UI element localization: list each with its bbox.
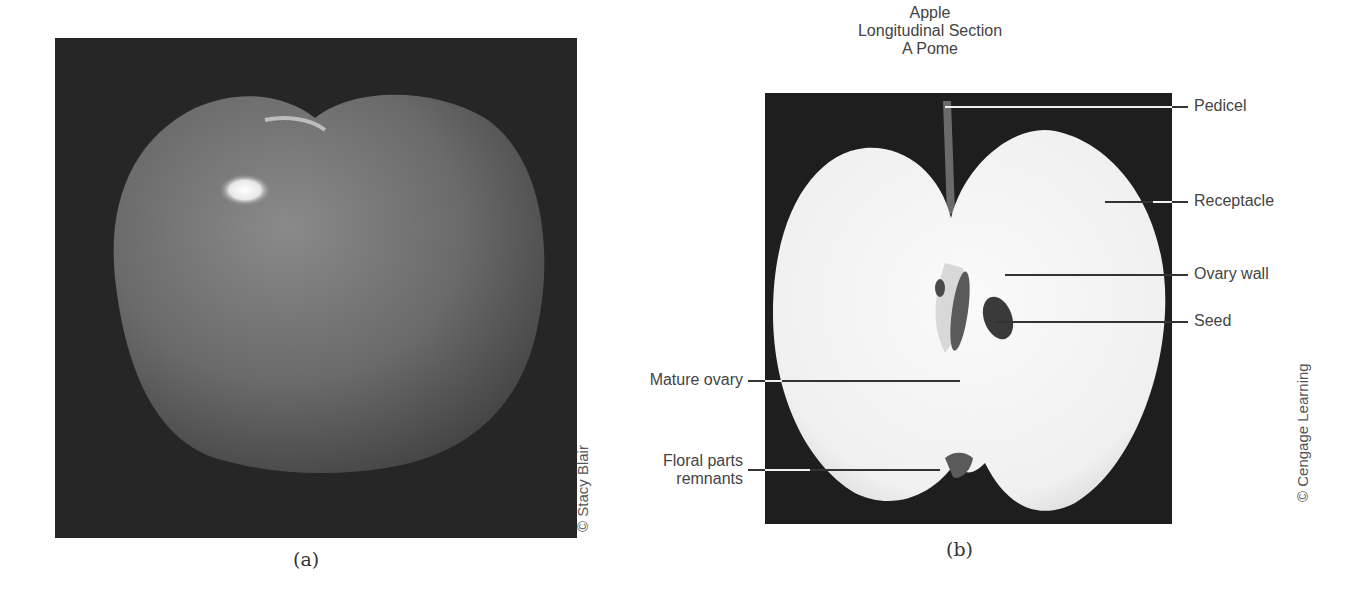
apple-section-illustration: [765, 93, 1172, 524]
title-line-3: A Pome: [830, 40, 1030, 58]
figure-a-credit: © Stacy Blair: [574, 445, 591, 532]
label-seed: Seed: [1194, 312, 1231, 330]
label-floral-parts-remnants: Floral parts remnants: [600, 452, 743, 488]
mature-ovary-leader-line-inner: [782, 380, 960, 382]
figure-b-credit: © Cengage Learning: [1294, 363, 1311, 502]
figure-b-caption: (b): [946, 538, 973, 560]
label-floral-parts-line-2: remnants: [600, 470, 743, 488]
seed-leader-line: [995, 321, 1188, 323]
floral-parts-leader-line-mid: [765, 469, 810, 471]
label-pedicel: Pedicel: [1194, 97, 1246, 115]
receptacle-leader-line-mid: [1153, 201, 1172, 203]
pedicel-leader-line-inner: [945, 106, 1172, 108]
floral-parts-leader-line-inner: [810, 469, 940, 471]
apple-illustration: [55, 38, 577, 538]
mature-ovary-leader-line-mid: [765, 380, 782, 382]
pedicel-leader-line: [1172, 106, 1188, 108]
ovary-wall-leader-line: [1005, 274, 1188, 276]
apple-section-photo: [765, 93, 1172, 524]
figure-b-title: Apple Longitudinal Section A Pome: [830, 4, 1030, 58]
label-receptacle: Receptacle: [1194, 192, 1274, 210]
label-ovary-wall: Ovary wall: [1194, 265, 1269, 283]
title-line-2: Longitudinal Section: [830, 22, 1030, 40]
label-mature-ovary: Mature ovary: [600, 371, 743, 389]
receptacle-leader-line: [1172, 201, 1188, 203]
floral-parts-leader-line: [748, 469, 765, 471]
title-line-1: Apple: [830, 4, 1030, 22]
mature-ovary-leader-line: [748, 380, 765, 382]
receptacle-leader-line-inner: [1105, 201, 1153, 203]
whole-apple-photo: [55, 38, 577, 538]
label-floral-parts-line-1: Floral parts: [600, 452, 743, 470]
figure-a-caption: (a): [293, 548, 319, 570]
